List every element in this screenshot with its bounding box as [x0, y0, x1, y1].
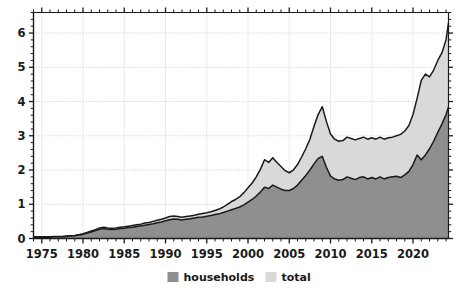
x-tick-label: 1980: [67, 247, 99, 261]
x-tick-label: 1990: [150, 247, 182, 261]
legend-swatch-total: [266, 272, 277, 282]
y-tick-label: 2: [17, 163, 25, 177]
area-chart: 1975198019851990199520002005201020152020…: [0, 0, 469, 305]
x-tick-label: 2010: [315, 247, 347, 261]
legend-label-households: households: [184, 271, 255, 284]
legend-swatch-households: [168, 272, 179, 282]
x-tick-label: 1995: [191, 247, 223, 261]
chart-legend: householdstotal: [168, 271, 311, 284]
y-tick-label: 3: [17, 129, 25, 143]
x-tick-label: 1975: [26, 247, 58, 261]
y-tick-label: 5: [17, 60, 25, 74]
x-tick-label: 2005: [273, 247, 305, 261]
y-tick-label: 6: [17, 26, 25, 40]
y-tick-label: 1: [17, 197, 25, 211]
x-tick-label: 2020: [397, 247, 429, 261]
legend-label-total: total: [282, 271, 311, 284]
chart-container: 1975198019851990199520002005201020152020…: [0, 0, 469, 305]
x-tick-label: 2000: [232, 247, 264, 261]
x-tick-label: 2015: [356, 247, 388, 261]
y-tick-label: 0: [17, 232, 25, 246]
y-tick-label: 4: [17, 95, 25, 109]
x-tick-label: 1985: [108, 247, 140, 261]
